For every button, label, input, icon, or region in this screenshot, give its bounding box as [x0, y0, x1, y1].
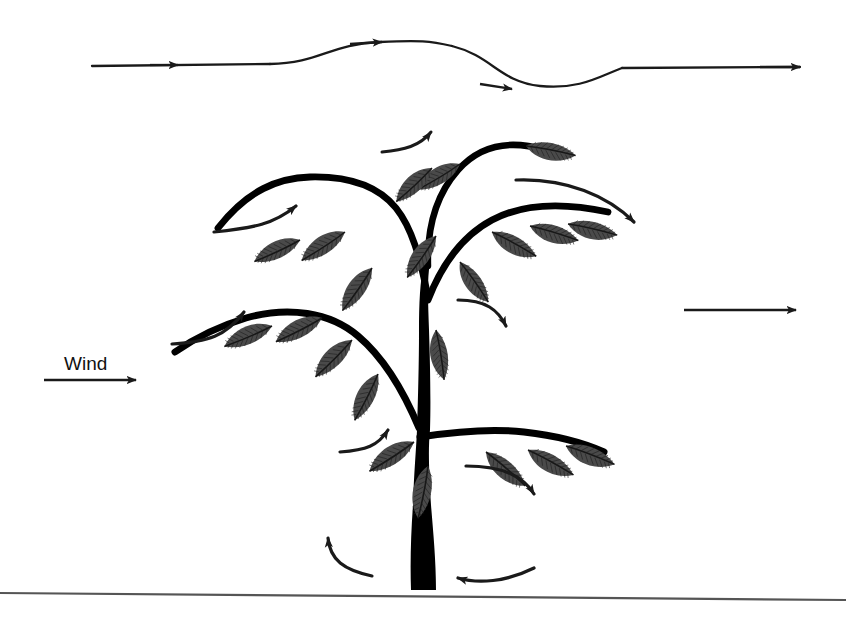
leaf [364, 434, 419, 477]
leaf [345, 370, 386, 424]
leaf [296, 225, 350, 266]
lee-descending-arrow-lower [466, 466, 534, 494]
leaf [428, 329, 451, 381]
ground-line [0, 593, 846, 600]
recirculation-return-arrow [458, 568, 534, 581]
apex-deflection-arrow [382, 132, 431, 152]
leaf [407, 464, 438, 520]
upper-streamline-arrowheads [150, 42, 800, 89]
leaf [524, 137, 577, 166]
leaf [488, 224, 540, 265]
wind-flow-diagram: Wind [0, 0, 846, 623]
leaf-group-lower-right [364, 434, 618, 520]
recirculation-rising-arrow [328, 538, 372, 576]
lee-descending-arrow-upper [516, 180, 634, 222]
leaf [308, 334, 358, 382]
upper-streamline [92, 41, 800, 87]
leaf [333, 263, 379, 315]
leaf [480, 445, 530, 494]
plant [175, 137, 619, 590]
leaf-group-middle-left [220, 310, 450, 423]
leaf [250, 232, 303, 267]
diagram-canvas: Wind [0, 0, 846, 623]
windward-deflection-arrow-lower [340, 430, 388, 452]
wind-label: Wind [64, 353, 107, 374]
lee-descending-arrow-middle [458, 300, 506, 326]
branch-upper-left [218, 177, 427, 292]
